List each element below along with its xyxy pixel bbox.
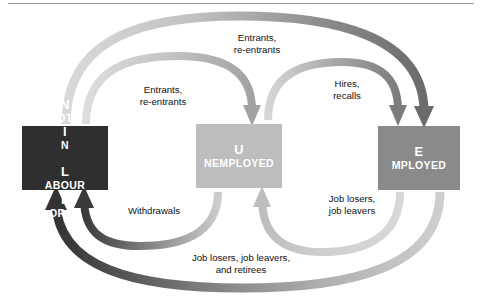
- node-unemployed[interactable]: UNEMPLOYED: [196, 124, 282, 188]
- node-not-in-labour-force[interactable]: NOT INLABOUR FORCE: [22, 126, 108, 190]
- flow-label-entrants-re-entrants-inner: Entrants, re-entrants: [108, 84, 218, 109]
- diagram-canvas: NOT INLABOUR FORCE UNEMPLOYED EMPLOYED E…: [0, 0, 482, 308]
- node-label-unemployed: UNEMPLOYED: [204, 142, 274, 169]
- flow-label-hires-recalls: Hires, recalls: [310, 78, 384, 103]
- node-label-not-in-labour-force: NOT INLABOUR FORCE: [45, 97, 86, 219]
- node-label-employed: EMPLOYED: [392, 144, 447, 171]
- flow-label-entrants-re-entrants-outer: Entrants, re-entrants: [198, 32, 316, 57]
- node-employed[interactable]: EMPLOYED: [378, 126, 460, 190]
- top-divider-rule: [8, 3, 474, 4]
- flow-label-job-losers-leavers-retirees: Job losers, job leavers, and retirees: [160, 252, 322, 277]
- flow-label-job-losers-job-leavers: Job losers, job leavers: [300, 193, 404, 218]
- flow-label-withdrawals: Withdrawals: [104, 205, 204, 217]
